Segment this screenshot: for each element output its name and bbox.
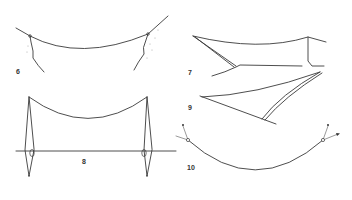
fig10-arrow-icon	[336, 133, 340, 136]
figure-7-drawing	[193, 36, 326, 76]
fig10-rope	[188, 140, 323, 170]
fig7-right-post	[308, 37, 324, 66]
fig9-brace-a	[262, 72, 320, 119]
fig10-right-ring-icon	[321, 138, 324, 141]
rigging-diagrams	[0, 0, 352, 200]
fig8-right-pole	[144, 97, 152, 176]
fig10-right-line-b	[323, 134, 338, 140]
fig10-left-anchor-dot	[182, 124, 184, 126]
figure-10-label: 10	[187, 164, 195, 171]
figure-9-label: 9	[188, 104, 192, 111]
fig10-right-anchor-dot	[327, 124, 329, 126]
fig7-ridge-line	[193, 36, 326, 44]
fig6-rock-texture	[27, 30, 159, 59]
fig7-brace-b	[195, 37, 234, 67]
fig8-left-pole	[25, 97, 34, 176]
figure-7-label: 7	[188, 69, 192, 76]
figure-10-drawing	[176, 124, 340, 170]
figure-8-label: 8	[82, 158, 86, 165]
fig10-left-line-a	[183, 126, 188, 140]
fig10-right-line-a	[323, 126, 328, 140]
figure-6-drawing	[16, 16, 168, 72]
fig7-lower-line	[212, 65, 302, 76]
fig6-rope	[16, 16, 168, 49]
fig9-brace-b	[265, 73, 322, 120]
figure-6-label: 6	[16, 68, 20, 75]
figure-8-drawing	[16, 97, 176, 177]
fig10-left-ring-icon	[186, 138, 189, 141]
fig6-right-rock	[134, 34, 148, 70]
fig8-rope	[29, 97, 147, 119]
fig9-upper-line	[202, 72, 320, 97]
figure-9-drawing	[200, 72, 322, 124]
